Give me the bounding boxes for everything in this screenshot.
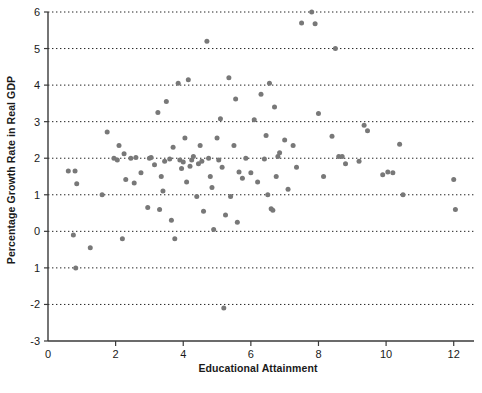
data-point	[309, 10, 314, 15]
data-point	[152, 162, 157, 167]
data-point	[380, 172, 385, 177]
data-point	[120, 236, 125, 241]
data-point	[204, 39, 209, 44]
data-point	[159, 174, 164, 179]
data-point	[223, 212, 228, 217]
data-point	[66, 169, 71, 174]
y-tick-label: 6	[34, 6, 40, 18]
data-point	[164, 99, 169, 104]
data-point	[73, 169, 78, 174]
data-point	[255, 179, 260, 184]
data-point-group	[66, 10, 458, 311]
data-point	[240, 176, 245, 181]
data-point	[184, 179, 189, 184]
data-point	[277, 150, 282, 155]
data-point	[100, 192, 105, 197]
y-tick-label: -2	[30, 298, 40, 310]
data-point	[274, 174, 279, 179]
data-point	[162, 159, 167, 164]
data-point	[252, 117, 257, 122]
data-point	[330, 134, 335, 139]
x-tick-label: 4	[180, 348, 186, 360]
data-point	[294, 165, 299, 170]
x-tick-label: 2	[113, 348, 119, 360]
data-point	[270, 208, 275, 213]
scatter-plot-figure: Percentage Growth Rate in Real GDP -3-21…	[0, 0, 482, 393]
data-point	[155, 110, 160, 115]
y-axis-tick-labels: -3-210123456	[30, 6, 40, 347]
data-point	[333, 46, 338, 51]
data-point	[343, 161, 348, 166]
data-point	[220, 165, 225, 170]
data-point	[133, 155, 138, 160]
data-point	[267, 81, 272, 86]
data-point	[169, 218, 174, 223]
data-point	[191, 154, 196, 159]
data-point	[138, 170, 143, 175]
data-point	[105, 129, 110, 134]
data-point	[198, 143, 203, 148]
data-point	[181, 159, 186, 164]
data-point	[145, 205, 150, 210]
data-point	[182, 136, 187, 141]
data-point	[233, 97, 238, 102]
data-point	[167, 156, 172, 161]
y-tick-label: 2	[34, 152, 40, 164]
data-point	[265, 192, 270, 197]
data-point	[176, 81, 181, 86]
data-point	[71, 232, 76, 237]
data-point	[237, 170, 242, 175]
data-point	[188, 164, 193, 169]
data-point	[262, 156, 267, 161]
data-point	[157, 207, 162, 212]
y-tick-label: 1	[34, 189, 40, 201]
data-point	[385, 170, 390, 175]
x-axis-tick-labels: 024681012	[45, 348, 460, 360]
data-point	[264, 133, 269, 138]
y-tick-label: 1	[34, 262, 40, 274]
data-point	[179, 166, 184, 171]
data-point	[208, 174, 213, 179]
y-tick-label: 0	[34, 225, 40, 237]
data-point	[160, 189, 165, 194]
data-point	[286, 187, 291, 192]
data-point	[272, 105, 277, 110]
data-point	[194, 194, 199, 199]
data-point	[216, 158, 221, 163]
data-point	[259, 92, 264, 97]
data-point	[248, 170, 253, 175]
data-point	[228, 194, 233, 199]
data-point	[362, 123, 367, 128]
data-point	[365, 128, 370, 133]
data-point	[149, 155, 154, 160]
data-point	[122, 151, 127, 156]
data-point	[88, 245, 93, 250]
data-point	[282, 137, 287, 142]
data-point	[172, 236, 177, 241]
data-point	[115, 158, 120, 163]
data-point	[313, 21, 318, 26]
x-axis-label: Educational Attainment	[48, 362, 468, 374]
data-point	[221, 306, 226, 311]
data-point	[401, 192, 406, 197]
data-point	[123, 177, 128, 182]
plot-canvas: -3-210123456 024681012	[0, 0, 482, 393]
y-tick-label: 5	[34, 43, 40, 55]
data-point	[218, 116, 223, 121]
data-point	[397, 142, 402, 147]
data-point	[340, 154, 345, 159]
data-point	[316, 111, 321, 116]
data-point	[171, 145, 176, 150]
data-point	[128, 156, 133, 161]
data-point	[243, 156, 248, 161]
data-point	[357, 159, 362, 164]
data-point	[226, 75, 231, 80]
data-point	[209, 185, 214, 190]
data-point	[390, 170, 395, 175]
data-point	[74, 181, 79, 186]
y-tick-label: -3	[30, 335, 40, 347]
data-point	[215, 136, 220, 141]
data-point	[231, 143, 236, 148]
data-point	[206, 156, 211, 161]
x-tick-label: 6	[248, 348, 254, 360]
